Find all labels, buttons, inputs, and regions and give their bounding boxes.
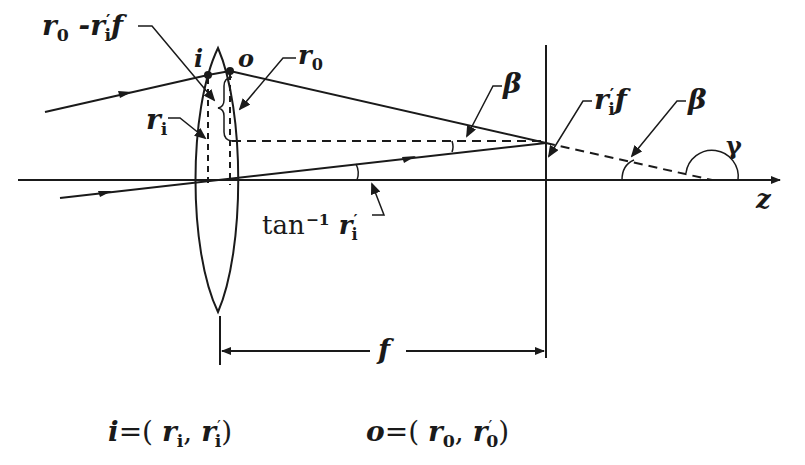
point-i: [204, 71, 212, 79]
label-rif: r′if: [594, 86, 627, 119]
label-ri: ri: [146, 106, 167, 138]
lens-ray-diagram: [0, 0, 805, 465]
point-o: [226, 67, 234, 75]
label-beta-right: β: [688, 86, 707, 114]
ray-arrow: [98, 191, 112, 197]
label-tan-inverse: tan−1 r′i: [262, 212, 358, 243]
ray-arrow: [402, 156, 416, 163]
incoming-ray-lower: [60, 143, 546, 198]
label-beta-left: β: [503, 70, 522, 98]
label-point-o: o: [238, 47, 254, 71]
label-point-i: i: [194, 47, 203, 71]
label-r0-minus-rif: r0 -r′if: [42, 12, 123, 45]
equation-i-definition: i=( ri, r′i): [108, 418, 232, 451]
equation-o-definition: o=( r0, r′0): [366, 418, 509, 451]
label-focal-length: f: [378, 336, 390, 364]
ray-arrow: [118, 91, 132, 98]
label-z-axis: z: [756, 186, 771, 212]
label-r0: r0: [298, 42, 323, 73]
label-gamma: γ: [726, 134, 742, 158]
outgoing-ray-upper: [230, 71, 546, 143]
